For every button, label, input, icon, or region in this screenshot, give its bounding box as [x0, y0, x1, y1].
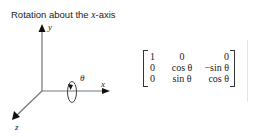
matrix-cell: 0 — [167, 51, 197, 62]
matrix-cell: 0 — [224, 51, 229, 62]
page-edge-divider — [247, 40, 248, 102]
z-axis-label: z — [14, 122, 19, 132]
z-axis-line — [17, 91, 42, 115]
z-axis-arrow-icon — [12, 111, 20, 120]
y-axis-label: y — [47, 22, 52, 32]
matrix-cell: sin θ — [167, 73, 197, 84]
rotation-matrix: 1 0 0 0 cos θ −sin θ 0 sin θ cos θ — [145, 51, 233, 84]
matrix-cell: 1 — [150, 51, 155, 62]
matrix-cell: cos θ — [167, 62, 197, 73]
x-axis-label: x — [100, 79, 105, 89]
matrix-cell: −sin θ — [204, 62, 229, 73]
theta-label: θ — [80, 73, 85, 83]
matrix-cell: 0 — [150, 62, 155, 73]
y-axis-arrow-icon — [39, 24, 46, 32]
matrix-cell: 0 — [150, 73, 155, 84]
rotation-arrow-icon — [68, 84, 73, 90]
matrix-row-1: 1 0 0 — [145, 51, 233, 62]
matrix-cell: cos θ — [208, 73, 229, 84]
matrix-row-2: 0 cos θ −sin θ — [145, 62, 233, 73]
matrix-row-3: 0 sin θ cos θ — [145, 73, 233, 84]
